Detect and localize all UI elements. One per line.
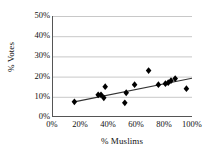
data-point-marker [123, 89, 129, 96]
data-point-marker [132, 81, 138, 88]
data-point-marker [146, 67, 152, 74]
y-tick-label: 50% [24, 11, 50, 20]
x-tick-label: 100% [175, 119, 209, 129]
data-point-marker [72, 98, 78, 105]
x-axis-tick-labels: 0%20%40%60%80%100% [0, 119, 216, 133]
y-tick-label: 10% [24, 92, 50, 101]
y-axis-title: % Votes [6, 27, 16, 87]
trendline [73, 78, 192, 102]
data-point-marker [102, 83, 108, 90]
x-axis-title: % Muslims [52, 136, 192, 146]
y-tick-label: 40% [24, 31, 50, 40]
data-point-marker [122, 99, 128, 106]
data-point-marker [184, 85, 190, 92]
plot-area [52, 16, 192, 117]
scatter-chart: % Votes 0%10%20%30%40%50% 0%20%40%60%80%… [0, 0, 216, 156]
y-tick-label: 20% [24, 72, 50, 81]
plot-svg [52, 16, 192, 117]
y-tick-label: 30% [24, 51, 50, 60]
data-point-marker [156, 81, 162, 88]
